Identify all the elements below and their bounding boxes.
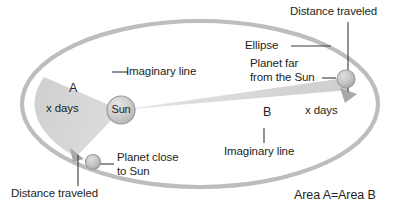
area-b-time-label: x days [305, 104, 338, 118]
imaginary-line-right-label: Imaginary line [224, 145, 294, 159]
sun-label: Sun [107, 103, 135, 117]
planet-close-label: Planet close to Sun [117, 151, 178, 178]
planet-far-from-sun-icon [337, 70, 355, 88]
area-a-time-label: x days [46, 102, 79, 116]
imaginary-line-left-label: Imaginary line [126, 65, 196, 79]
kepler-second-law-diagram: Sun A x days B x days Imaginary line Ima… [0, 0, 393, 214]
area-a-label: A [69, 82, 77, 96]
ellipse-label: Ellipse [245, 39, 278, 53]
area-b-label: B [263, 106, 271, 120]
area-equality-label: Area A=Area B [294, 189, 376, 203]
planet-close-to-sun-icon [86, 155, 101, 170]
distance-traveled-top-label: Distance traveled [290, 5, 377, 19]
planet-far-label: Planet far from the Sun [250, 57, 315, 84]
distance-traveled-bottom-label: Distance traveled [11, 187, 98, 201]
